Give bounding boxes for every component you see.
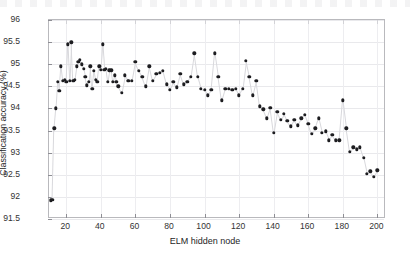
data-point [58,89,61,92]
data-point [217,75,220,78]
y-axis-tick [48,131,52,132]
scan-artifact [0,0,410,7]
x-axis-tick [135,214,136,218]
data-point [78,58,81,61]
x-axis-tick-top [239,20,240,24]
gridline-horizontal [49,219,384,220]
series-line-segment [346,129,350,153]
data-point [213,51,216,54]
data-point [251,93,254,96]
data-point [101,43,104,46]
y-axis-tick-label: 94.5 [0,80,20,90]
gridline-vertical [205,20,206,217]
data-point [192,51,195,54]
x-axis-tick [274,214,275,218]
data-point [272,131,275,134]
gridline-horizontal [49,108,384,109]
gridline-horizontal [49,86,384,87]
data-point [141,75,144,78]
data-point [300,116,303,119]
data-point [186,80,189,83]
gridline-horizontal [49,153,384,154]
series-line-segment [71,43,74,82]
x-axis-tick-label: 160 [300,221,314,231]
y-axis-tick-label: 91.5 [0,213,20,223]
y-axis-tick-label: 92 [0,191,20,201]
x-axis-tick-top [170,20,171,24]
data-point [120,91,123,94]
data-point [106,80,109,83]
y-axis-tick [48,153,52,154]
data-point [51,198,54,201]
data-point [310,132,313,135]
data-point [189,75,192,78]
x-axis-tick-label: 60 [130,221,140,231]
data-point [84,75,87,78]
data-point [262,108,265,111]
x-axis-tick-label: 80 [164,221,174,231]
data-point [179,72,182,75]
x-axis-tick [343,214,344,218]
data-point [158,71,161,74]
data-point [96,80,99,83]
data-point [54,107,57,110]
x-axis-tick-top [343,20,344,24]
data-point [279,118,282,121]
x-axis-tick-top [308,20,309,24]
data-point [115,80,118,83]
gridline-horizontal [49,197,384,198]
y-axis-tick [48,42,52,43]
data-point [220,99,223,102]
data-point [66,43,69,46]
data-point [244,59,247,62]
gridline-horizontal [49,175,384,176]
gridline-vertical [170,20,171,217]
x-axis-tick-top [66,20,67,24]
data-point [307,122,310,125]
y-axis-tick [48,20,52,21]
y-axis-tick-label: 92.5 [0,169,20,179]
x-axis-tick [205,214,206,218]
data-point [341,99,344,102]
x-axis-tick [377,214,378,218]
data-point [151,79,154,82]
data-point [289,124,292,127]
data-point [210,88,213,91]
series-line-segment [52,129,55,201]
data-point [358,146,361,149]
data-point [130,79,133,82]
x-axis-tick [66,214,67,218]
data-point [248,75,251,78]
data-point [89,65,92,68]
y-axis-tick [48,108,52,109]
x-axis-tick-top [135,20,136,24]
y-axis-tick-label: 96 [0,14,20,24]
data-point [372,175,375,178]
chart-figure: Classification accuracy (%) ELM hidden n… [0,0,410,258]
data-point [265,116,268,119]
data-point [313,127,316,130]
x-axis-tick-label: 140 [265,221,279,231]
y-axis-tick [48,86,52,87]
data-point [70,40,73,43]
data-point [92,69,95,72]
gridline-vertical [377,20,378,217]
data-point [59,65,62,68]
x-axis-tick [308,214,309,218]
x-axis-tick-label: 100 [196,221,210,231]
data-point [376,169,379,172]
data-point [161,69,164,72]
gridline-horizontal [49,42,384,43]
x-axis-tick-top [274,20,275,24]
x-axis-tick [101,214,102,218]
data-point [134,60,137,63]
x-axis-tick-label: 20 [61,221,71,231]
x-axis-title: ELM hidden node [0,236,410,246]
y-axis-tick-label: 95 [0,58,20,68]
series-line-segment [194,54,198,78]
data-point [73,78,76,81]
data-point [296,124,299,127]
data-point [52,127,55,130]
gridline-vertical [274,20,275,217]
gridline-horizontal [49,131,384,132]
